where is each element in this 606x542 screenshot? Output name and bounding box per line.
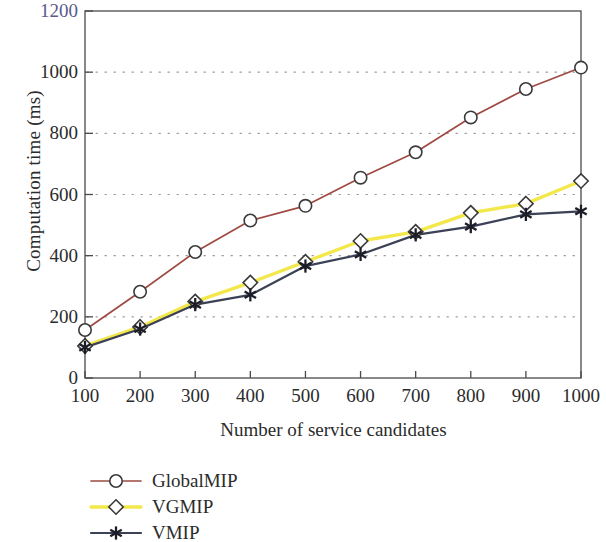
data-point-marker xyxy=(299,200,311,212)
series-markers-globalmip xyxy=(79,61,587,336)
data-point-marker xyxy=(244,214,256,226)
legend-item: VGMIP xyxy=(88,494,388,520)
data-point-marker xyxy=(110,475,122,487)
data-point-marker xyxy=(134,286,146,298)
data-point-marker xyxy=(354,171,366,183)
legend-label: VMIP xyxy=(144,522,200,542)
chart-legend: GlobalMIPVGMIPVMIP xyxy=(88,468,388,542)
data-point-marker xyxy=(409,146,421,158)
series-markers-vgmip xyxy=(78,174,588,353)
data-point-marker xyxy=(574,174,588,188)
legend-label: VGMIP xyxy=(144,496,213,518)
legend-marker-icon xyxy=(88,468,144,494)
series-globalmip xyxy=(85,68,581,330)
legend-marker-icon xyxy=(88,494,144,520)
series-line xyxy=(85,211,581,347)
legend-marker-icon xyxy=(88,520,144,542)
legend-item: VMIP xyxy=(88,520,388,542)
series-line xyxy=(85,68,581,330)
data-point-marker xyxy=(520,83,532,95)
plot-area xyxy=(0,0,606,400)
data-point-marker xyxy=(79,324,91,336)
data-point-marker xyxy=(243,275,257,289)
data-point-marker xyxy=(464,206,478,220)
series-vmip xyxy=(85,211,581,347)
data-point-marker xyxy=(575,61,587,73)
series-markers-vmip xyxy=(79,205,586,354)
data-point-marker xyxy=(353,234,367,248)
data-point-marker xyxy=(109,500,123,514)
legend-label: GlobalMIP xyxy=(144,470,238,492)
x-axis-title: Number of service candidates xyxy=(85,419,582,441)
data-point-marker xyxy=(189,246,201,258)
legend-item: GlobalMIP xyxy=(88,468,388,494)
chart-figure: Computation time (ms) 120010008006004002… xyxy=(0,0,606,542)
data-point-marker xyxy=(465,111,477,123)
